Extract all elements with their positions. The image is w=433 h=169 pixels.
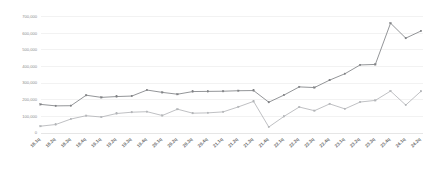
x-axis-tick-label: 21.1q (212, 137, 224, 149)
x-axis-tick-label: 23.1q (334, 137, 346, 149)
data-point-marker (177, 93, 179, 95)
x-axis-tick-label: 24.1q (395, 137, 407, 149)
x-axis-tick-label: 18.2q (45, 137, 57, 149)
y-axis-tick-label: 500,000 (22, 47, 38, 52)
data-point-marker (101, 116, 103, 118)
data-point-marker (192, 91, 194, 93)
y-axis-tick-label: 400,000 (22, 64, 38, 69)
data-point-marker (40, 104, 42, 106)
y-axis-tick-label: 600,000 (22, 31, 38, 36)
x-axis-tick-label: 19.2q (105, 137, 117, 149)
data-point-marker (131, 95, 133, 97)
data-point-marker (375, 64, 377, 66)
x-axis-tick-label: 20.3q (182, 137, 194, 149)
data-point-marker (390, 22, 392, 24)
x-axis-tick-label: 21.2q (227, 137, 239, 149)
x-axis-tick-label: 22.2q (288, 137, 300, 149)
data-point-marker (344, 73, 346, 75)
data-point-marker (162, 115, 164, 117)
data-point-marker (344, 108, 346, 110)
x-axis-tick-label: 19.3q (121, 137, 133, 149)
data-point-marker (298, 86, 300, 88)
x-axis-tick-label: 21.3q (242, 137, 254, 149)
data-point-marker (222, 90, 224, 92)
data-point-marker (405, 104, 407, 106)
data-point-marker (55, 105, 57, 107)
data-point-marker (70, 118, 72, 120)
x-axis-tick-label: 23.2q (349, 137, 361, 149)
data-point-marker (253, 101, 255, 103)
data-point-marker (238, 90, 240, 92)
data-point-marker (268, 126, 270, 128)
line-chart: 0100,000200,000300,000400,000500,000600,… (0, 0, 433, 169)
data-point-marker (420, 90, 422, 92)
y-axis-tick-label: 700,000 (22, 14, 38, 19)
data-point-marker (283, 116, 285, 118)
data-point-marker (359, 64, 361, 66)
data-point-marker (101, 97, 103, 99)
data-point-marker (192, 112, 194, 114)
data-point-marker (85, 94, 87, 96)
x-axis-tick-label: 19.1q (90, 137, 102, 149)
x-axis-tick-label: 20.4q (197, 137, 209, 149)
x-axis-tick-label: 19.4q (136, 137, 148, 149)
data-point-marker (162, 92, 164, 94)
x-axis-tick-label: 20.2q (166, 137, 178, 149)
series-line (41, 23, 422, 106)
data-point-marker (146, 89, 148, 91)
y-axis-labels-group: 0100,000200,000300,000400,000500,000600,… (22, 14, 38, 136)
data-point-marker (177, 108, 179, 110)
x-axis-tick-label: 23.4q (379, 137, 391, 149)
data-point-marker (359, 101, 361, 103)
series-group (40, 22, 422, 127)
y-axis-tick-label: 300,000 (22, 80, 38, 85)
data-point-marker (420, 30, 422, 32)
x-axis-tick-label: 21.4q (258, 137, 270, 149)
data-point-marker (253, 90, 255, 92)
x-axis-tick-label: 20.1q (151, 137, 163, 149)
data-point-marker (298, 106, 300, 108)
x-axis-tick-label: 18.4q (75, 137, 87, 149)
data-point-marker (314, 110, 316, 112)
data-point-marker (329, 103, 331, 105)
data-point-marker (70, 105, 72, 107)
x-axis-tick-label: 18.3q (60, 137, 72, 149)
y-axis-tick-label: 0 (35, 130, 38, 135)
data-point-marker (314, 87, 316, 89)
data-point-marker (375, 100, 377, 102)
data-point-marker (146, 111, 148, 113)
data-point-marker (405, 37, 407, 39)
x-axis-tick-label: 23.3q (364, 137, 376, 149)
data-point-marker (116, 96, 118, 98)
data-point-marker (55, 124, 57, 126)
y-axis-tick-label: 100,000 (22, 114, 38, 119)
gridlines-group (41, 17, 424, 134)
x-axis-tick-label: 22.1q (273, 137, 285, 149)
x-axis-tick-label: 22.4q (319, 137, 331, 149)
chart-canvas: 0100,000200,000300,000400,000500,000600,… (0, 0, 433, 169)
data-point-marker (116, 113, 118, 115)
x-axis-labels-group: 18.1q18.2q18.3q18.4q19.1q19.2q19.3q19.4q… (29, 137, 421, 149)
y-axis-tick-label: 200,000 (22, 97, 38, 102)
data-point-marker (222, 111, 224, 113)
data-point-marker (329, 79, 331, 81)
data-point-marker (207, 112, 209, 114)
data-point-marker (40, 125, 42, 127)
data-point-marker (207, 91, 209, 93)
x-axis-tick-label: 24.2q (410, 137, 422, 149)
data-point-marker (131, 111, 133, 113)
data-point-marker (283, 94, 285, 96)
x-axis-tick-label: 22.3q (303, 137, 315, 149)
data-point-marker (268, 101, 270, 103)
data-point-marker (238, 106, 240, 108)
data-point-marker (390, 90, 392, 92)
x-axis-tick-label: 18.1q (29, 137, 41, 149)
data-point-marker (85, 115, 87, 117)
